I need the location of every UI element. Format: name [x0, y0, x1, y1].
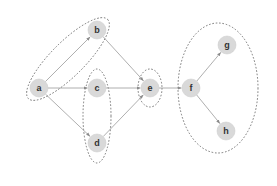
- edge-f-g: [197, 52, 221, 81]
- node-c: c: [88, 79, 106, 97]
- node-label: g: [224, 40, 230, 50]
- cluster-layer: [16, 7, 258, 163]
- node-f: f: [182, 79, 200, 97]
- node-a: a: [30, 79, 48, 97]
- node-label: h: [223, 126, 229, 136]
- edge-d-e: [103, 95, 143, 137]
- edge-f-h: [197, 95, 220, 124]
- edge-b-e: [103, 37, 144, 81]
- node-h: h: [217, 122, 235, 140]
- graph-diagram: abcdefgh: [0, 0, 277, 186]
- edge-a-b: [45, 37, 90, 82]
- node-label: e: [147, 83, 152, 93]
- node-label: c: [94, 83, 99, 93]
- node-label: d: [94, 138, 100, 148]
- node-b: b: [88, 21, 106, 39]
- node-d: d: [88, 134, 106, 152]
- node-label: b: [94, 25, 100, 35]
- node-g: g: [218, 36, 236, 54]
- node-layer: abcdefgh: [30, 21, 236, 152]
- node-e: e: [141, 79, 159, 97]
